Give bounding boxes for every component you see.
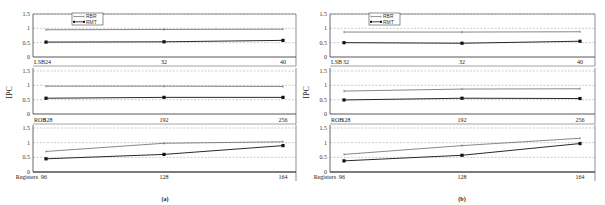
subfigure-caption: (a) xyxy=(162,196,169,203)
data-point-rmt xyxy=(578,97,581,100)
x-tick-label: 96 xyxy=(41,174,47,180)
y-tick-label: 0 xyxy=(27,54,30,60)
x-axis-title: LSB xyxy=(331,59,342,65)
y-tick-label: 1 xyxy=(27,82,30,88)
data-point-rmt xyxy=(44,157,47,160)
legend: RBRRMT xyxy=(72,13,103,25)
y-tick-label: 1.5 xyxy=(320,68,328,74)
legend-rmt-marker xyxy=(73,21,75,23)
panel-lsb: 00.511.5LSB243240RBRRMT xyxy=(23,11,297,66)
legend-rmt-marker xyxy=(380,21,382,23)
y-tick-label: 1.5 xyxy=(320,125,328,131)
data-point-rmt xyxy=(578,142,581,145)
panel-lsb: 00.511.5LSB323240RBRRMT xyxy=(320,11,596,66)
y-tick-label: 0.5 xyxy=(23,97,31,103)
y-tick-label: 1.5 xyxy=(23,11,31,17)
x-tick-label: 128 xyxy=(160,174,169,180)
data-point-rmt xyxy=(342,98,345,101)
x-tick-label: 32 xyxy=(459,59,465,65)
y-tick-label: 0.5 xyxy=(23,40,31,46)
panel-rob: 00.511.5ROB128192256 xyxy=(23,68,297,124)
data-point-rmt xyxy=(460,42,463,45)
data-point-rmt xyxy=(162,96,165,99)
y-tick-label: 1 xyxy=(324,82,327,88)
x-tick-label: 24 xyxy=(45,59,51,65)
legend: RBRRMT xyxy=(369,13,400,25)
chart-b: 00.511.5LSB323240RBRRMT00.511.5ROB128192… xyxy=(302,11,595,203)
x-axis-title: LSB xyxy=(34,59,45,65)
x-tick-label: 192 xyxy=(160,117,169,123)
x-tick-label: 96 xyxy=(339,174,345,180)
y-tick-label: 0.5 xyxy=(320,40,328,46)
y-tick-label: 1 xyxy=(27,140,30,146)
subfigure-caption: (b) xyxy=(458,196,465,203)
data-point-rmt xyxy=(460,97,463,100)
x-tick-label: 32 xyxy=(161,59,167,65)
x-tick-label: 256 xyxy=(576,117,585,123)
y-axis-title: IPC xyxy=(302,86,311,98)
x-tick-label: 40 xyxy=(280,59,286,65)
series-line-rmt xyxy=(46,146,283,159)
data-point-rmt xyxy=(342,41,345,44)
data-point-rmt xyxy=(44,40,47,43)
x-tick-label: 128 xyxy=(44,117,53,123)
y-tick-label: 0.5 xyxy=(23,154,31,160)
legend-label-rmt: RMT xyxy=(86,19,97,25)
x-tick-label: 256 xyxy=(279,117,288,123)
ipc-comparison-chart: 00.511.5LSB243240RBRRMT00.511.5ROB128192… xyxy=(0,0,605,205)
x-axis-title: Registers xyxy=(314,174,337,180)
x-tick-label: 164 xyxy=(279,174,288,180)
chart-a: 00.511.5LSB243240RBRRMT00.511.5ROB128192… xyxy=(5,11,296,203)
y-tick-label: 1 xyxy=(27,25,30,31)
y-tick-label: 0 xyxy=(27,111,30,117)
x-tick-label: 128 xyxy=(458,174,467,180)
y-tick-label: 0 xyxy=(324,111,327,117)
y-tick-label: 1.5 xyxy=(23,68,31,74)
data-point-rmt xyxy=(162,40,165,43)
data-point-rmt xyxy=(44,97,47,100)
y-tick-label: 0.5 xyxy=(320,154,328,160)
data-point-rmt xyxy=(281,96,284,99)
y-tick-label: 1.5 xyxy=(23,125,31,131)
series-line-rbr xyxy=(46,29,283,30)
x-tick-label: 164 xyxy=(576,174,585,180)
data-point-rmt xyxy=(162,153,165,156)
x-tick-label: 128 xyxy=(342,117,351,123)
y-tick-label: 1 xyxy=(324,140,327,146)
y-tick-label: 1 xyxy=(324,25,327,31)
series-line-rbr xyxy=(46,142,283,152)
y-tick-label: 0.5 xyxy=(320,97,328,103)
legend-rmt-marker xyxy=(83,21,85,23)
data-point-rmt xyxy=(281,39,284,42)
legend-rmt-marker xyxy=(370,21,372,23)
panel-registers: 00.511.5Registers96128164 xyxy=(314,125,595,181)
panel-rob: 00.511.5ROB128192256 xyxy=(320,68,596,124)
x-axis-title: Registers xyxy=(16,174,39,180)
data-point-rmt xyxy=(281,144,284,147)
y-tick-label: 0 xyxy=(324,54,327,60)
legend-label-rmt: RMT xyxy=(383,19,394,25)
data-point-rmt xyxy=(578,40,581,43)
y-tick-label: 1.5 xyxy=(320,11,328,17)
x-tick-label: 32 xyxy=(343,59,349,65)
data-point-rmt xyxy=(342,159,345,162)
panel-registers: 00.511.5Registers96128164 xyxy=(16,125,296,181)
y-axis-title: IPC xyxy=(5,86,14,98)
data-point-rmt xyxy=(460,154,463,157)
x-tick-label: 192 xyxy=(458,117,467,123)
x-tick-label: 40 xyxy=(577,59,583,65)
